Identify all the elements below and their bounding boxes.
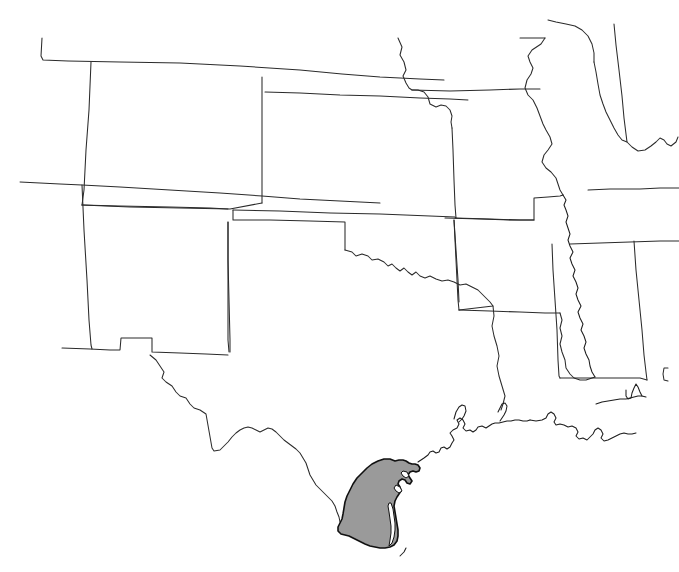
range-map-figure bbox=[0, 0, 679, 572]
map-canvas bbox=[0, 0, 679, 572]
